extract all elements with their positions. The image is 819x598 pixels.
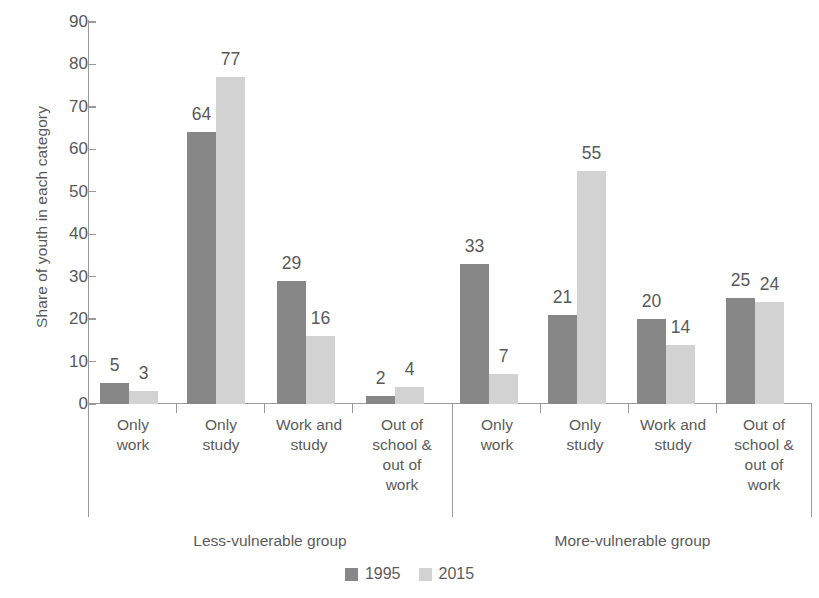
- y-axis-tick-label: 80: [56, 55, 88, 72]
- bar-value-label-g2-c3-1995: 20: [625, 293, 678, 311]
- bar-g1-c3-1995[interactable]: [277, 281, 306, 404]
- bar-value-label-g2-c1-1995: 33: [448, 238, 501, 256]
- category-label-line: Work and: [266, 415, 352, 435]
- bar-g2-c4-1995[interactable]: [726, 298, 755, 404]
- legend-label-1995: 1995: [365, 566, 401, 582]
- y-axis-tick-label: 60: [56, 140, 88, 157]
- x-axis-tick: [264, 404, 265, 413]
- category-label-line: school &: [354, 435, 450, 455]
- y-axis-tick: [88, 191, 96, 192]
- plot-right-edge-line: [811, 404, 812, 517]
- category-label-line: work: [718, 475, 810, 495]
- category-label-line: Only: [178, 415, 264, 435]
- x-axis-tick: [628, 404, 629, 413]
- category-label-line: school &: [718, 435, 810, 455]
- y-axis-tick-label: 10: [56, 353, 88, 370]
- legend-label-2015: 2015: [439, 566, 475, 582]
- category-label-line: Only: [90, 415, 176, 435]
- bar-g1-c3-2015[interactable]: [306, 336, 335, 404]
- bar-chart: Share of youth in each category 90807060…: [0, 0, 819, 598]
- category-label: Onlywork: [90, 415, 176, 455]
- y-axis-tick-label: 20: [56, 310, 88, 327]
- category-label: Out ofschool &out ofwork: [718, 415, 810, 496]
- x-axis-tick: [540, 404, 541, 413]
- y-axis-title: Share of youth in each category: [33, 57, 51, 377]
- x-axis-tick: [176, 404, 177, 413]
- x-axis-tick: [352, 404, 353, 413]
- category-label-line: Out of: [354, 415, 450, 435]
- y-axis-tick: [88, 276, 96, 277]
- bar-value-label-g1-c2-2015: 77: [204, 51, 257, 69]
- category-label: Onlywork: [454, 415, 540, 455]
- category-label-line: Out of: [718, 415, 810, 435]
- bar-g1-c2-1995[interactable]: [187, 132, 216, 404]
- bar-value-label-g1-c3-1995: 29: [265, 255, 318, 273]
- bar-g2-c2-2015[interactable]: [577, 171, 606, 404]
- legend: 1995 2015: [0, 566, 819, 582]
- x-axis-tick: [811, 404, 812, 413]
- category-label: Out ofschool &out ofwork: [354, 415, 450, 496]
- bar-g1-c4-1995[interactable]: [366, 396, 395, 404]
- legend-item-2015[interactable]: 2015: [419, 566, 475, 582]
- y-axis-tick-label: 30: [56, 268, 88, 285]
- bar-g1-c4-2015[interactable]: [395, 387, 424, 404]
- category-label: Work andstudy: [266, 415, 352, 455]
- y-axis-tick-label: 0: [56, 395, 88, 412]
- bar-g2-c3-2015[interactable]: [666, 345, 695, 404]
- category-label-line: work: [90, 435, 176, 455]
- bar-g2-c4-2015[interactable]: [755, 302, 784, 404]
- category-label-line: work: [454, 435, 540, 455]
- group-label-more-vulnerable: More-vulnerable group: [453, 532, 812, 550]
- bar-g1-c2-2015[interactable]: [216, 77, 245, 404]
- bar-value-label-g1-c3-2015: 16: [294, 310, 347, 328]
- category-label: Onlystudy: [542, 415, 628, 455]
- category-label: Onlystudy: [178, 415, 264, 455]
- category-label-line: out of: [718, 455, 810, 475]
- category-label-line: study: [178, 435, 264, 455]
- y-axis-tick: [88, 149, 96, 150]
- bar-value-label-g2-c2-2015: 55: [565, 145, 618, 163]
- bar-value-label-g2-c4-2015: 24: [743, 276, 796, 294]
- bar-g2-c1-1995[interactable]: [460, 264, 489, 404]
- y-axis-tick-label: 50: [56, 183, 88, 200]
- legend-item-1995[interactable]: 1995: [345, 566, 401, 582]
- y-axis-tick-label: 70: [56, 98, 88, 115]
- y-axis-tick-label: 90: [56, 13, 88, 30]
- bar-g1-c1-2015[interactable]: [129, 391, 158, 404]
- bar-value-label-g2-c3-2015: 14: [654, 319, 707, 337]
- legend-swatch-1995-icon: [345, 568, 358, 581]
- category-label-line: work: [354, 475, 450, 495]
- category-label-line: out of: [354, 455, 450, 475]
- bar-value-label-g1-c1-2015: 3: [117, 365, 170, 383]
- y-axis-tick: [88, 64, 96, 65]
- category-label-line: Only: [454, 415, 540, 435]
- bar-value-label-g2-c1-2015: 7: [477, 348, 530, 366]
- category-label-line: Only: [542, 415, 628, 435]
- y-axis-tick: [88, 318, 96, 319]
- bar-g2-c1-2015[interactable]: [489, 374, 518, 404]
- category-label-line: study: [542, 435, 628, 455]
- x-axis-tick: [88, 404, 89, 413]
- y-axis-tick: [88, 234, 96, 235]
- x-axis-tick: [716, 404, 717, 413]
- y-axis-tick-label: 40: [56, 225, 88, 242]
- category-label: Work andstudy: [630, 415, 716, 455]
- group-label-less-vulnerable: Less-vulnerable group: [88, 532, 452, 550]
- category-label-line: study: [630, 435, 716, 455]
- category-label-line: study: [266, 435, 352, 455]
- y-axis-tick: [88, 21, 96, 22]
- legend-swatch-2015-icon: [419, 568, 432, 581]
- bar-value-label-g1-c4-2015: 4: [383, 361, 436, 379]
- bar-g2-c2-1995[interactable]: [548, 315, 577, 404]
- y-axis-tick: [88, 106, 96, 107]
- category-label-line: Work and: [630, 415, 716, 435]
- x-axis-tick: [452, 404, 453, 413]
- bar-g1-c1-1995[interactable]: [100, 383, 129, 404]
